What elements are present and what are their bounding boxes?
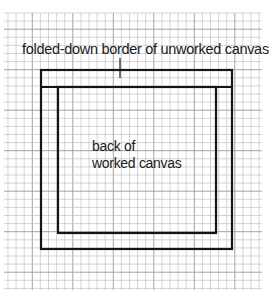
label-folded-border: folded-down border of unworked canvas [22,41,269,57]
label-worked-canvas: worked canvas [92,155,181,171]
graph-paper-diagram: folded-down border of unworked canvas ba… [0,0,270,296]
label-back-of: back of [92,138,135,154]
